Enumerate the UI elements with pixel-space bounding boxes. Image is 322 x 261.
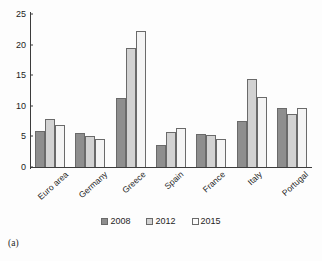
- bar-2012: [247, 79, 257, 167]
- bar-2008: [277, 108, 287, 167]
- bar-2008: [196, 134, 206, 167]
- legend-item-2012: 2012: [146, 216, 175, 226]
- bar-groups: [30, 14, 312, 167]
- x-axis-label-cell: Italy: [231, 168, 271, 212]
- bar-2012: [287, 114, 297, 167]
- bar-group: [70, 14, 110, 167]
- bar-2008: [156, 145, 166, 167]
- x-axis-tick-label: Italy: [246, 170, 264, 187]
- x-axis-tick-label: Germany: [78, 170, 110, 200]
- legend-label: 2008: [110, 216, 130, 226]
- y-axis-tick-label: 20: [16, 40, 30, 49]
- bar-group: [272, 14, 312, 167]
- bar-2015: [297, 108, 307, 167]
- bar-2015: [95, 139, 105, 167]
- chart-legend: 200820122015: [0, 216, 322, 226]
- x-axis-tick-label: Greece: [121, 170, 148, 195]
- legend-item-2015: 2015: [192, 216, 221, 226]
- x-axis-category-labels: Euro areaGermanyGreeceSpainFranceItalyPo…: [30, 168, 312, 212]
- legend-swatch-icon: [101, 218, 108, 225]
- y-axis-tick-label: 5: [21, 132, 30, 141]
- bar-group: [30, 14, 70, 167]
- bar-2015: [216, 139, 226, 167]
- bar-group: [191, 14, 231, 167]
- bar-2008: [75, 133, 85, 167]
- x-axis-tick-label: Portugal: [280, 170, 310, 198]
- bar-2015: [136, 31, 146, 167]
- bar-2012: [206, 135, 216, 167]
- legend-item-2008: 2008: [101, 216, 130, 226]
- legend-swatch-icon: [192, 218, 199, 225]
- x-axis-label-cell: Germany: [70, 168, 110, 212]
- legend-label: 2012: [155, 216, 175, 226]
- bar-2012: [166, 132, 176, 167]
- x-axis-label-cell: Greece: [111, 168, 151, 212]
- legend-swatch-icon: [146, 218, 153, 225]
- bar-2012: [85, 136, 95, 167]
- figure-caption: (a): [8, 238, 19, 248]
- bar-2015: [257, 97, 267, 167]
- x-axis-label-cell: France: [191, 168, 231, 212]
- x-axis-label-cell: Spain: [151, 168, 191, 212]
- y-axis-tick-label: 25: [16, 10, 30, 19]
- bar-2012: [126, 48, 136, 167]
- x-axis-label-cell: Portugal: [272, 168, 312, 212]
- bar-2008: [116, 98, 126, 167]
- x-axis-tick-label: Spain: [163, 170, 185, 191]
- x-axis-tick-label: Euro area: [37, 170, 71, 202]
- bar-2012: [45, 119, 55, 167]
- y-axis-tick-label: 15: [16, 71, 30, 80]
- y-axis-tick-label: 10: [16, 101, 30, 110]
- bar-2015: [55, 125, 65, 167]
- figure-panel-a: 0510152025 Euro areaGermanyGreeceSpainFr…: [0, 0, 322, 261]
- bar-2015: [176, 128, 186, 167]
- y-axis-tick-label: 0: [21, 163, 30, 172]
- plot-area: 0510152025: [30, 14, 312, 167]
- bar-2008: [35, 131, 45, 167]
- bar-group: [151, 14, 191, 167]
- bar-2008: [237, 121, 247, 167]
- legend-label: 2015: [201, 216, 221, 226]
- bar-group: [111, 14, 151, 167]
- x-axis-tick-label: France: [202, 170, 228, 194]
- bar-group: [231, 14, 271, 167]
- x-axis-label-cell: Euro area: [30, 168, 70, 212]
